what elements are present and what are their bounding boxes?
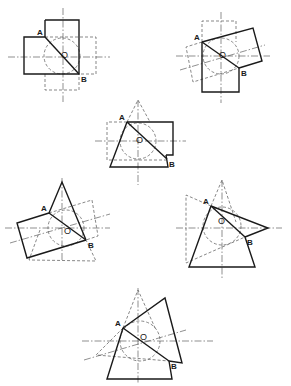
label-a: A xyxy=(115,319,121,328)
diagram-cone-square: ABO xyxy=(95,100,186,185)
label-b: B xyxy=(169,160,175,169)
label-o: O xyxy=(61,50,68,60)
diagram-square-square-right-angle: ABO xyxy=(8,8,110,102)
visible-outline xyxy=(123,298,182,363)
label-a: A xyxy=(37,28,43,37)
visible-outline xyxy=(17,213,86,258)
intersection-line-ab xyxy=(127,122,167,159)
label-b: B xyxy=(171,362,177,371)
visible-outline xyxy=(127,122,173,155)
label-o: O xyxy=(219,50,226,60)
hidden-outline xyxy=(127,100,150,122)
label-b: B xyxy=(81,75,87,84)
diagram-square-square-oblique: ABO xyxy=(176,12,270,103)
diagram-cone-prism-oblique-2: ABO xyxy=(82,288,213,384)
label-b: B xyxy=(241,69,247,78)
diagram-cone-prism-oblique: ABO xyxy=(5,178,110,262)
drawing-canvas: ABOABOABOABOABOABO xyxy=(0,0,291,386)
label-o: O xyxy=(218,216,225,226)
oblique-axis xyxy=(10,214,110,243)
label-a: A xyxy=(41,204,47,213)
hidden-outline xyxy=(202,21,236,42)
label-b: B xyxy=(88,241,94,250)
intersection-line-ab xyxy=(211,206,245,237)
label-a: A xyxy=(194,33,200,42)
hidden-outline xyxy=(45,37,96,74)
label-o: O xyxy=(64,226,71,236)
hidden-outline xyxy=(45,74,79,90)
label-b: B xyxy=(247,238,253,247)
label-o: O xyxy=(136,135,143,145)
label-a: A xyxy=(203,197,209,206)
label-a: A xyxy=(119,113,125,122)
diagram-cone-cone: ABO xyxy=(176,180,282,278)
hidden-outline xyxy=(49,200,98,240)
label-o: O xyxy=(140,332,147,342)
